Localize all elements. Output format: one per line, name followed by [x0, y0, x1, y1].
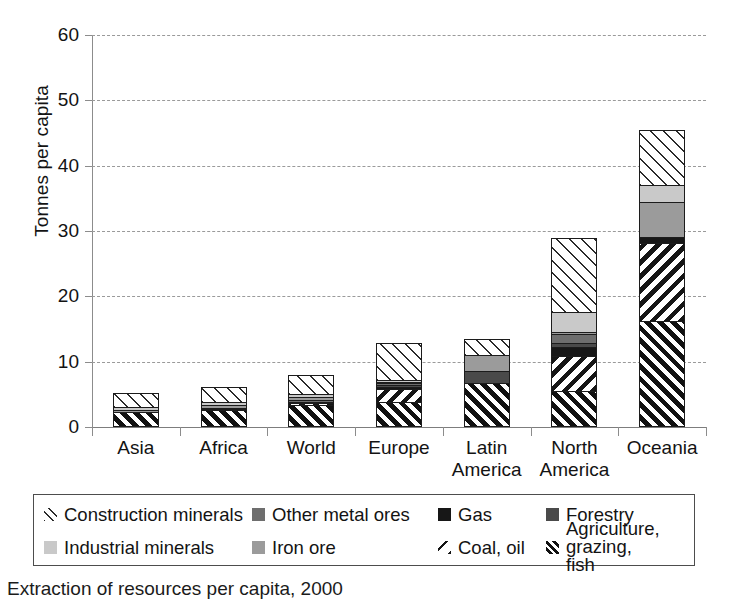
bar-segment-ironore	[201, 405, 247, 408]
bar-segment-forestry	[288, 402, 334, 403]
bar-segment-construction	[201, 387, 247, 402]
x-category-line: America	[524, 459, 624, 481]
bar-segment-ironore	[113, 410, 159, 412]
x-category-line: Latin	[437, 437, 537, 459]
bar-segment-agriculture	[288, 405, 334, 427]
legend-label-ironore: Iron ore	[272, 538, 336, 557]
legend-row-2: Industrial mineralsIron oreCoal, oilAgri…	[34, 529, 694, 565]
legend-item-agriculture[interactable]: Agriculture, grazing, fish	[546, 529, 694, 565]
x-category-label-north-america: NorthAmerica	[524, 437, 624, 481]
x-category-label-europe: Europe	[349, 437, 449, 459]
y-tick-label-40: 40	[33, 156, 79, 175]
y-tick-label-0: 0	[33, 417, 79, 436]
bar-segment-agriculture	[113, 412, 159, 427]
y-tick-label-30: 30	[33, 221, 79, 240]
bar-segment-forestry	[201, 409, 247, 410]
x-category-line: Africa	[174, 437, 274, 459]
bar-north-america[interactable]	[551, 35, 597, 427]
x-tick-mark-7	[706, 427, 707, 436]
bar-segment-othermetal	[376, 383, 422, 384]
legend-swatch-othermetal-icon	[252, 508, 265, 521]
bar-segment-construction	[639, 130, 685, 185]
legend-swatch-gas-icon	[438, 508, 451, 521]
bar-latin-america[interactable]	[464, 35, 510, 427]
legend-label-industrial: Industrial minerals	[64, 538, 214, 557]
legend-item-coaloil[interactable]: Coal, oil	[438, 529, 525, 565]
bar-asia[interactable]	[113, 35, 159, 427]
bar-segment-forestry	[376, 385, 422, 387]
legend-swatch-construction-icon	[44, 508, 57, 521]
legend-item-ironore[interactable]: Iron ore	[252, 529, 336, 565]
bar-segment-forestry	[551, 343, 597, 347]
legend-item-gas[interactable]: Gas	[438, 496, 492, 532]
gridline-0	[92, 427, 706, 428]
bar-europe[interactable]	[376, 35, 422, 427]
figure-container: Tonnes per capita 0102030405060 AsiaAfri…	[0, 0, 730, 601]
bar-segment-agriculture	[464, 383, 510, 427]
x-tick-mark-5	[531, 427, 532, 436]
bar-segment-construction	[288, 375, 334, 394]
bar-oceania[interactable]	[639, 35, 685, 427]
figure-caption: Extraction of resources per capita, 2000	[7, 578, 723, 600]
legend-label-agriculture: Agriculture, grazing, fish	[566, 520, 694, 574]
bar-segment-construction	[376, 343, 422, 380]
legend-item-construction[interactable]: Construction minerals	[44, 496, 243, 532]
bar-segment-ironore	[464, 355, 510, 371]
x-category-label-latin-america: LatinAmerica	[437, 437, 537, 481]
bar-segment-industrial	[551, 312, 597, 332]
legend-swatch-ironore-icon	[252, 541, 265, 554]
bar-segment-construction	[551, 238, 597, 312]
bar-segment-agriculture	[201, 410, 247, 427]
bar-segment-coaloil	[639, 243, 685, 321]
x-category-label-world: World	[261, 437, 361, 459]
bar-segment-agriculture	[376, 402, 422, 427]
bar-world[interactable]	[288, 35, 334, 427]
legend-swatch-coaloil-icon	[438, 541, 451, 554]
x-category-line: Oceania	[612, 437, 712, 459]
x-tick-mark-4	[443, 427, 444, 436]
bar-segment-gas	[376, 387, 422, 390]
x-category-label-asia: Asia	[86, 437, 186, 459]
bar-segment-coaloil	[288, 403, 334, 405]
bar-segment-gas	[639, 237, 685, 243]
x-category-line: Asia	[86, 437, 186, 459]
bar-segment-ironore	[639, 202, 685, 237]
legend-item-othermetal[interactable]: Other metal ores	[252, 496, 410, 532]
y-tick-label-10: 10	[33, 352, 79, 371]
x-category-label-oceania: Oceania	[612, 437, 712, 459]
bar-segment-gas	[551, 347, 597, 356]
x-category-line: Europe	[349, 437, 449, 459]
x-tick-mark-1	[180, 427, 181, 436]
bar-segment-coaloil	[551, 356, 597, 391]
legend-swatch-forestry-icon	[546, 508, 559, 521]
bar-segment-industrial	[639, 185, 685, 202]
legend-label-construction: Construction minerals	[64, 505, 243, 524]
y-tick-label-50: 50	[33, 90, 79, 109]
y-tick-label-60: 60	[33, 25, 79, 44]
bar-africa[interactable]	[201, 35, 247, 427]
legend-swatch-agriculture-icon	[546, 541, 559, 554]
bar-segment-othermetal	[288, 400, 334, 401]
legend-label-othermetal: Other metal ores	[272, 505, 410, 524]
legend-item-industrial[interactable]: Industrial minerals	[44, 529, 214, 565]
bar-segment-forestry	[464, 371, 510, 382]
legend-label-coaloil: Coal, oil	[458, 538, 525, 557]
x-tick-mark-6	[618, 427, 619, 436]
legend-swatch-industrial-icon	[44, 541, 57, 554]
bar-segment-othermetal	[201, 408, 247, 409]
chart-legend: Construction mineralsOther metal oresGas…	[33, 494, 695, 566]
bar-segment-industrial	[376, 380, 422, 382]
plot-canvas	[92, 35, 706, 427]
y-tick-label-20: 20	[33, 286, 79, 305]
bar-segment-industrial	[113, 407, 159, 410]
bar-segment-ironore	[376, 382, 422, 383]
x-category-line: World	[261, 437, 361, 459]
bar-segment-industrial	[288, 394, 334, 397]
x-tick-mark-0	[92, 427, 93, 436]
bar-segment-othermetal	[551, 334, 597, 342]
x-category-line: North	[524, 437, 624, 459]
bar-segment-ironore	[288, 397, 334, 400]
x-tick-mark-3	[355, 427, 356, 436]
legend-label-gas: Gas	[458, 505, 492, 524]
bar-segment-construction	[464, 339, 510, 355]
